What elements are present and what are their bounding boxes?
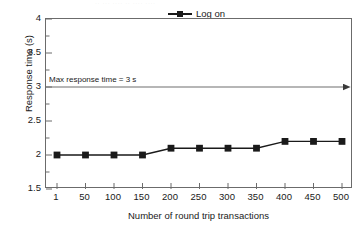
y-tick-label: 2	[15, 149, 41, 159]
y-tick-label: 2.5	[15, 115, 41, 125]
y-minor-ticks	[46, 36, 50, 172]
y-tick-label: 3.5	[15, 47, 41, 57]
filled-square-icon	[177, 11, 183, 17]
x-major-ticks	[57, 183, 342, 189]
y-tick-labels: 1.5 2 2.5 3 3.5 4	[14, 18, 41, 188]
plot-area: Max response time = 3 s	[45, 18, 352, 188]
chart-figure: ·· ··· ···· ·· ···· ···· Log on Response…	[0, 0, 364, 229]
series-log-on	[54, 138, 346, 158]
x-axis-title: Number of round trip transactions	[45, 210, 352, 221]
y-tick-label: 1.5	[15, 183, 41, 193]
plot-canvas	[46, 19, 353, 189]
x-tick-labels: 1 50 100 150 200 250 300 350 400 450 500	[45, 192, 352, 206]
scan-artifact-text: ·· ··· ···· ·· ···· ····	[95, 0, 285, 6]
threshold-annotation-label: Max response time = 3 s	[49, 76, 136, 84]
x-tick-label: 500	[324, 192, 358, 202]
y-tick-label: 3	[15, 81, 41, 91]
y-tick-label: 4	[15, 13, 41, 23]
